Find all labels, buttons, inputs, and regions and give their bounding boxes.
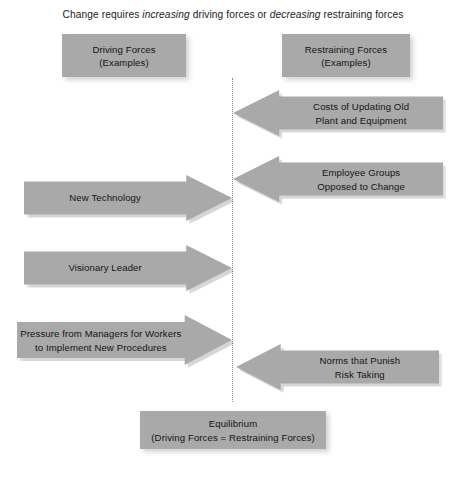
- equilibrium-line2: (Driving Forces = Restraining Forces): [146, 430, 320, 444]
- restraining-arrow-2-line2: Opposed to Change: [279, 179, 443, 193]
- diagram-title: Change requires increasing driving force…: [0, 8, 466, 22]
- restraining-arrow-1-line2: Plant and Equipment: [279, 113, 443, 127]
- title-emphasis-increasing: increasing: [142, 9, 189, 20]
- driving-arrow-3-line2: to Implement New Procedures: [17, 340, 185, 354]
- restraining-arrow-2-line1: Employee Groups: [279, 166, 443, 180]
- title-emphasis-decreasing: decreasing: [270, 9, 321, 20]
- title-tail: restraining forces: [321, 9, 404, 20]
- restraining-forces-header-line1: Restraining Forces: [288, 42, 404, 56]
- driving-forces-header-box: Driving Forces (Examples): [62, 34, 186, 77]
- force-field-diagram: Change requires increasing driving force…: [0, 0, 466, 479]
- restraining-arrow-3-line1: Norms that Punish: [281, 354, 439, 368]
- equilibrium-box: Equilibrium (Driving Forces = Restrainin…: [140, 411, 326, 449]
- driving-forces-header-line2: (Examples): [68, 56, 180, 70]
- driving-forces-header-line1: Driving Forces: [68, 42, 180, 56]
- driving-arrow-3-line1: Pressure from Managers for Workers: [17, 327, 185, 341]
- restraining-forces-header-line2: (Examples): [288, 56, 404, 70]
- equilibrium-line1: Equilibrium: [146, 417, 320, 431]
- driving-arrow-1-line1: New Technology: [24, 191, 186, 205]
- title-lead: Change requires: [63, 9, 143, 20]
- title-mid: driving forces or: [190, 9, 270, 20]
- driving-arrow-2-line1: Visionary Leader: [24, 261, 186, 275]
- restraining-forces-header-box: Restraining Forces (Examples): [282, 34, 410, 77]
- restraining-arrow-3-line2: Risk Taking: [281, 367, 439, 381]
- center-dotted-line: [232, 78, 233, 402]
- restraining-arrow-1-line1: Costs of Updating Old: [279, 100, 443, 114]
